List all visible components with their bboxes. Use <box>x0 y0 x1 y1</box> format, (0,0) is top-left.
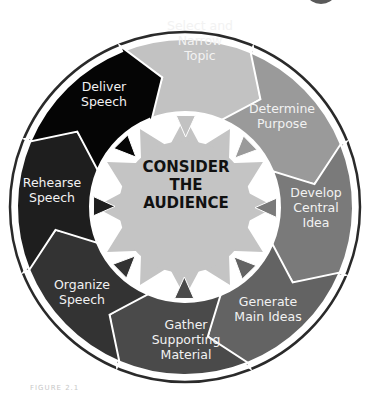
label-line: Narrow <box>167 33 233 48</box>
label-line: Gather <box>152 317 221 332</box>
label-line: Determine <box>249 101 315 116</box>
step-label-select-topic: Select and Narrow Topic <box>167 18 233 63</box>
step-label-rehearse-speech: Rehearse Speech <box>23 175 81 205</box>
center-line-3: AUDIENCE <box>143 194 230 212</box>
label-line: Select and <box>167 18 233 33</box>
center-line-1: CONSIDER <box>143 158 230 176</box>
step-label-determine-purpose: Determine Purpose <box>249 101 315 131</box>
label-line: Develop <box>290 185 341 200</box>
center-line-2: THE <box>143 176 230 194</box>
label-line: Purpose <box>249 116 315 131</box>
step-label-deliver-speech: Deliver Speech <box>81 79 127 109</box>
step-label-develop-central-idea: Develop Central Idea <box>290 185 341 230</box>
label-line: Deliver <box>81 79 127 94</box>
label-line: Main Ideas <box>234 309 301 324</box>
label-line: Idea <box>290 215 341 230</box>
label-line: Rehearse <box>23 175 81 190</box>
label-line: Speech <box>81 94 127 109</box>
speechmaking-cycle-diagram: CONSIDER THE AUDIENCE Select and Narrow … <box>0 0 372 399</box>
step-label-gather-material: Gather Supporting Material <box>152 317 221 362</box>
center-label: CONSIDER THE AUDIENCE <box>143 158 230 212</box>
label-line: Organize <box>54 277 110 292</box>
label-line: Material <box>152 347 221 362</box>
label-line: Central <box>290 200 341 215</box>
step-label-organize-speech: Organize Speech <box>54 277 110 307</box>
figure-caption: FIGURE 2.1 <box>30 384 79 392</box>
label-line: Supporting <box>152 332 221 347</box>
label-line: Topic <box>167 48 233 63</box>
step-label-generate-main-ideas: Generate Main Ideas <box>234 294 301 324</box>
label-line: Speech <box>23 190 81 205</box>
label-line: Speech <box>54 292 110 307</box>
label-line: Generate <box>234 294 301 309</box>
